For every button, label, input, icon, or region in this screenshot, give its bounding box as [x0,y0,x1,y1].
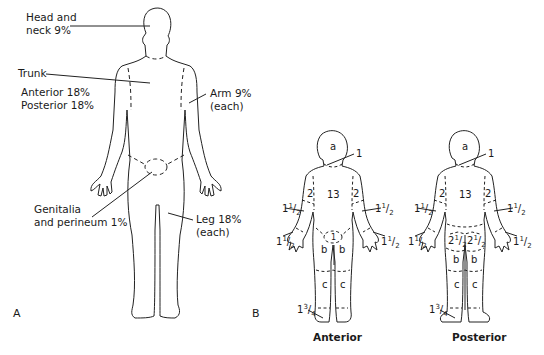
anterior-forearm-right-label: 11/2 [375,201,394,218]
posterior-foot-label: 13/4 [429,302,448,319]
posterior-forearm-left-label: 11/2 [414,201,433,218]
posterior-lower-leg-right-label: c [472,280,478,290]
head-neck-label: Head and neck 9% [26,11,77,37]
adult-segment-dashes [128,56,184,175]
posterior-head-label: a [462,142,468,152]
anterior-lower-leg-left-label: c [322,280,328,290]
posterior-thigh-left-label: b [453,255,459,265]
trunk-percent-label: Anterior 18% Posterior 18% [21,86,94,112]
posterior-forearm-right-label: 11/2 [507,201,526,218]
anterior-neck-label: 1 [356,149,362,159]
panel-a-letter: A [13,307,21,320]
anterior-thigh-left-label: b [321,245,327,255]
anterior-upper-arm-right-label: 2 [353,189,359,199]
leg-label: Leg 18% (each) [196,213,241,239]
posterior-buttock-left-label: 21/2 [448,233,467,250]
anterior-foot-label: 13/4 [297,302,316,319]
anterior-head-label: a [330,142,336,152]
anterior-genitalia-label: 1 [331,233,336,243]
adult-body-outline [91,8,221,318]
anterior-thigh-right-label: b [339,245,345,255]
posterior-buttock-right-label: 21/2 [467,233,486,250]
posterior-upper-arm-left-label: 2 [439,189,445,199]
arm-label: Arm 9% (each) [210,87,252,113]
genitalia-label: Genitalia and perineum 1% [34,203,127,229]
posterior-upper-arm-right-label: 2 [485,189,491,199]
posterior-trunk-label: 13 [459,190,472,200]
anterior-hand-left-label: 11/2 [276,234,295,251]
anterior-caption: Anterior [313,331,362,343]
trunk-label: Trunk [18,67,47,80]
anterior-forearm-left-label: 11/2 [282,201,301,218]
posterior-neck-label: 1 [488,149,494,159]
anterior-lower-leg-right-label: c [340,280,346,290]
posterior-caption: Posterior [452,331,506,343]
anterior-hand-right-label: 11/2 [381,234,400,251]
child-anterior-outline [288,131,379,322]
panel-b-letter: B [252,307,260,320]
anterior-trunk-label: 13 [327,190,340,200]
posterior-hand-right-label: 11/2 [513,234,532,251]
anterior-upper-arm-left-label: 2 [307,189,313,199]
child-posterior-outline [415,131,517,322]
diagram-drawing [0,0,544,355]
posterior-lower-leg-left-label: c [454,280,460,290]
posterior-hand-left-label: 11/2 [408,234,427,251]
posterior-thigh-right-label: b [471,255,477,265]
